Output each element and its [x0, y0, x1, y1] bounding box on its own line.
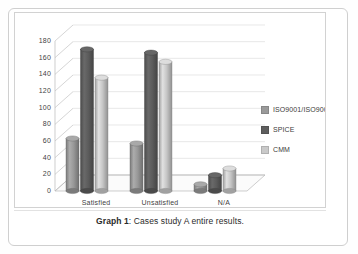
chart-container: 020406080100120140160180 SatisfiedUnsati…	[14, 12, 326, 208]
y-axis-tick-labels: 020406080100120140160180	[15, 13, 51, 208]
y-axis-tick-label: 120	[17, 87, 51, 95]
y-axis-tick-label: 20	[17, 170, 51, 178]
x-axis-tick-label: N/A	[184, 199, 264, 206]
legend-swatch-icon	[261, 126, 269, 134]
y-axis-tick-label: 160	[17, 54, 51, 62]
legend-item-label: SPICE	[273, 126, 295, 133]
legend-swatch-icon	[261, 146, 269, 154]
caption-divider	[14, 210, 326, 211]
legend-item: CMM	[261, 145, 326, 154]
y-axis-tick-label: 140	[17, 70, 51, 78]
legend-item: SPICE	[261, 125, 326, 134]
legend-swatch-icon	[261, 106, 269, 114]
caption-label: Graph 1	[96, 216, 129, 226]
figure-caption: Graph 1: Cases study A entire results.	[14, 216, 326, 226]
y-axis-tick-label: 80	[17, 120, 51, 128]
y-axis-tick-label: 180	[17, 37, 51, 45]
legend-item: ISO9001/ISO9000-3	[261, 105, 326, 114]
y-axis-tick-label: 100	[17, 104, 51, 112]
legend-item-label: CMM	[273, 146, 290, 153]
figure-page: 020406080100120140160180 SatisfiedUnsati…	[0, 0, 358, 254]
y-axis-tick-label: 0	[17, 187, 51, 195]
chart-plot-area: 020406080100120140160180 SatisfiedUnsati…	[15, 13, 326, 208]
y-axis-tick-label: 40	[17, 154, 51, 162]
y-axis-tick-label: 60	[17, 137, 51, 145]
chart-legend: ISO9001/ISO9000-3SPICECMM	[261, 105, 326, 165]
caption-text: Cases study A entire results.	[134, 216, 244, 226]
legend-item-label: ISO9001/ISO9000-3	[273, 106, 326, 113]
